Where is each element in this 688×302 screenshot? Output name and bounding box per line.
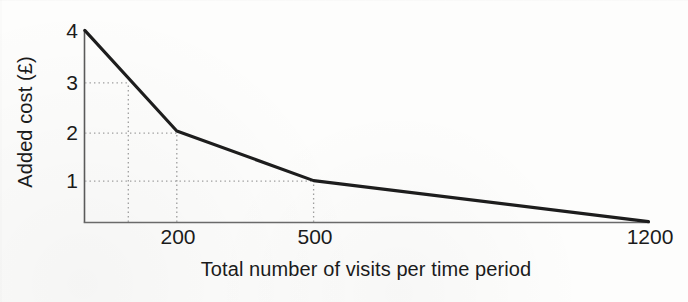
x-axis-tick-labels: 200 500 1200 <box>0 0 688 302</box>
y-axis-title: Added cost (£) <box>12 6 38 238</box>
x-tick-label-200: 200 <box>160 226 195 247</box>
x-tick-label-500: 500 <box>297 226 332 247</box>
x-tick-label-1200: 1200 <box>627 226 674 247</box>
chart-figure: 4 3 2 1 200 500 1200 Added cost (£) Tota… <box>0 0 688 302</box>
x-axis-title: Total number of visits per time period <box>84 258 648 281</box>
